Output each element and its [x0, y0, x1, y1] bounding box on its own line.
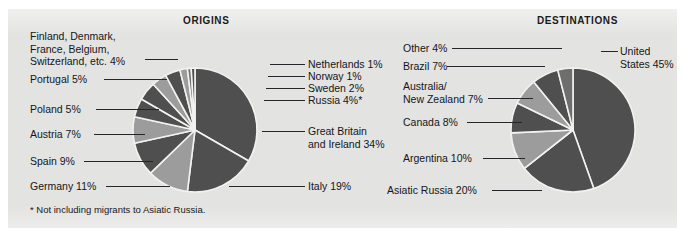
origins-chart-title: ORIGINS [183, 15, 229, 26]
origins-label-group-multi-line1: Finland, Denmark, [30, 30, 125, 43]
origins-leader-sweden [266, 88, 305, 89]
origins-leader-germany [106, 186, 170, 187]
origins-label-group-multi-line2: France, Belgium, [30, 43, 125, 56]
origins-label-group-multi-line3: Switzerland, etc. 4% [30, 55, 125, 68]
destinations-label-asiatic-russia: Asiatic Russia 20% [387, 184, 477, 197]
destinations-leader-australia-nz [488, 98, 533, 99]
origins-label-netherlands: Netherlands 1% [308, 58, 383, 71]
origins-label-norway: Norway 1% [308, 70, 362, 83]
origins-leader-netherlands [270, 64, 305, 65]
origins-label-italy: Italy 19% [308, 180, 351, 193]
destinations-leader-brazil [447, 66, 545, 67]
origins-label-germany: Germany 11% [30, 180, 96, 193]
origins-leader-austria [94, 134, 145, 135]
origins-leader-poland [96, 109, 159, 110]
destinations-label-australia-nz-line1: Australia/ [403, 80, 483, 93]
destinations-label-canada: Canada 8% [403, 116, 458, 129]
destinations-label-other: Other 4% [403, 42, 447, 55]
origins-pie-svg [131, 66, 259, 194]
destinations-leader-argentina [483, 158, 525, 159]
origins-label-great-britain-line2: and Ireland 34% [308, 138, 384, 151]
destinations-label-united-states: United States 45% [620, 45, 674, 70]
destinations-leader-united-states [601, 51, 618, 52]
destinations-label-brazil: Brazil 7% [403, 60, 447, 73]
destinations-leader-other [452, 48, 562, 49]
origins-pie-chart [131, 66, 259, 194]
destinations-label-argentina: Argentina 10% [403, 152, 472, 165]
destinations-pie-svg [509, 66, 637, 194]
origins-label-great-britain: Great Britain and Ireland 34% [308, 125, 384, 150]
destinations-pie-chart [509, 66, 637, 194]
origins-label-austria: Austria 7% [30, 128, 81, 141]
origins-label-russia: Russia 4%* [308, 94, 362, 107]
origins-label-great-britain-line1: Great Britain [308, 125, 384, 138]
origins-label-spain: Spain 9% [30, 155, 75, 168]
destinations-label-australia-nz-line2: New Zealand 7% [403, 93, 483, 106]
origins-label-sweden: Sweden 2% [308, 82, 364, 95]
origins-label-poland: Poland 5% [30, 103, 81, 116]
destinations-leader-canada [467, 122, 522, 123]
infographic-page: ORIGINS Finland, Denmark, France, Belgiu… [0, 0, 685, 249]
origins-leader-portugal [104, 79, 167, 80]
origins-leader-group-multi [145, 59, 178, 60]
origins-footnote: * Not including migrants to Asiatic Russ… [30, 204, 205, 215]
origins-leader-russia [264, 100, 305, 101]
origins-label-group-multi: Finland, Denmark, France, Belgium, Switz… [30, 30, 125, 68]
destinations-label-australia-nz: Australia/ New Zealand 7% [403, 80, 483, 105]
origins-label-portugal: Portugal 5% [30, 73, 87, 86]
destinations-label-united-states-line2: States 45% [620, 58, 674, 71]
destinations-chart-title: DESTINATIONS [537, 15, 618, 26]
origins-leader-great-britain [262, 131, 305, 132]
origins-leader-spain [84, 161, 153, 162]
origins-leader-norway [268, 76, 305, 77]
origins-leader-italy [229, 186, 305, 187]
destinations-label-united-states-line1: United [620, 45, 674, 58]
destinations-leader-asiatic-russia [492, 190, 542, 191]
